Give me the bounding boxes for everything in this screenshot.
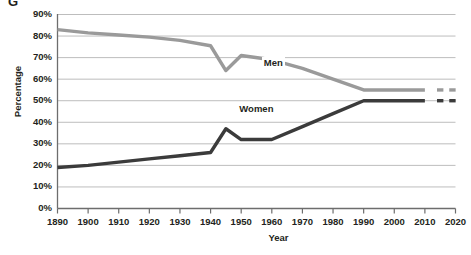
y-tick-label: 50% [18,94,52,105]
series-label-men: Men [262,57,285,68]
series-lines [58,30,456,168]
x-tick-label: 1900 [71,216,105,227]
x-tick-label: 1970 [285,216,319,227]
y-tick-label: 90% [18,8,52,19]
y-tick-label: 10% [18,180,52,191]
x-tick-label: 1960 [255,216,289,227]
x-tick-label: 1930 [163,216,197,227]
y-tick-label: 30% [18,137,52,148]
y-tick-label: 40% [18,116,52,127]
x-tick-label: 1980 [316,216,350,227]
y-axis-title: Percentage [12,52,23,132]
x-tick-label: 1890 [41,216,75,227]
x-tick-label: 2010 [408,216,442,227]
x-tick-label: 2000 [377,216,411,227]
x-tick-label: 2020 [439,216,471,227]
y-tick-label: 20% [18,159,52,170]
y-tick-label: 80% [18,30,52,41]
x-axis-title: Year [0,232,465,243]
x-tick-label: 1950 [224,216,258,227]
x-axis-title-text: Year [268,232,288,243]
x-tick-label: 1910 [102,216,136,227]
x-tick-label: 1990 [347,216,381,227]
series-label-women: Women [237,103,275,114]
y-tick-label: 0% [18,202,52,213]
x-tick-label: 1940 [194,216,228,227]
y-tick-label: 60% [18,73,52,84]
y-tick-label: 70% [18,51,52,62]
x-axis-ticks [58,209,456,214]
series-line-men [58,30,425,90]
x-tick-label: 1920 [132,216,166,227]
